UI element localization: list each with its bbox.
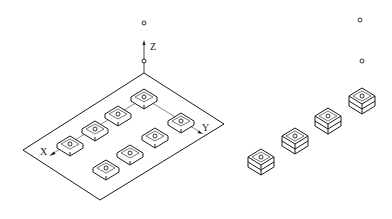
x-axis-label: X	[40, 146, 48, 157]
stack-4	[349, 88, 375, 114]
right-marker-lower	[360, 59, 364, 63]
z-marker-upper	[142, 21, 146, 25]
diagram-canvas: Z X Y	[0, 0, 392, 219]
stack-1	[248, 149, 274, 175]
y-axis-label: Y	[202, 122, 209, 133]
z-arrow-icon	[143, 40, 146, 45]
stack-2	[282, 128, 308, 154]
z-marker-lower	[142, 59, 146, 63]
stack-3	[315, 108, 341, 134]
isometric-pad-diagram: Z X Y	[0, 0, 392, 219]
right-marker-upper	[358, 18, 362, 22]
base-plate	[23, 73, 224, 200]
z-axis-label: Z	[150, 41, 156, 52]
